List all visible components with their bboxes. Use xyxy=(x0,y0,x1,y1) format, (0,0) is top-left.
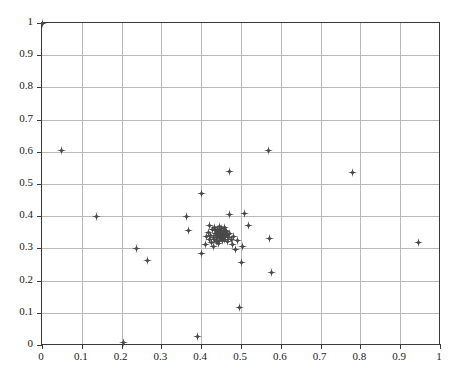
data-point xyxy=(235,303,244,312)
data-point xyxy=(220,223,229,232)
x-axis-tick xyxy=(281,344,282,349)
y-axis-tick-label: 0.4 xyxy=(0,208,33,221)
x-axis-tick xyxy=(82,344,83,349)
y-axis-tick xyxy=(37,248,42,249)
x-axis-tick xyxy=(241,344,242,349)
data-point xyxy=(348,168,357,177)
data-point xyxy=(264,146,273,155)
y-axis-tick xyxy=(37,216,42,217)
gridline-horizontal xyxy=(42,248,439,249)
data-point xyxy=(213,233,222,242)
data-point xyxy=(213,228,222,237)
data-point xyxy=(207,238,216,247)
x-axis-tick-label: 0.7 xyxy=(300,350,340,363)
y-axis-tick-label: 0.7 xyxy=(0,112,33,125)
data-point xyxy=(209,233,218,242)
x-axis-tick xyxy=(440,344,441,349)
y-axis-tick xyxy=(37,23,42,24)
scatter-chart: 00.10.20.30.40.50.60.70.80.9100.10.20.30… xyxy=(0,0,463,382)
x-axis-tick-label: 1 xyxy=(419,350,459,363)
data-point xyxy=(204,228,213,237)
data-point xyxy=(209,242,218,251)
data-point xyxy=(225,167,234,176)
y-axis-tick-label: 0.2 xyxy=(0,273,33,286)
x-axis-tick-label: 0 xyxy=(21,350,61,363)
y-axis-tick xyxy=(37,281,42,282)
data-point xyxy=(219,233,228,242)
gridline-horizontal xyxy=(42,216,439,217)
data-point xyxy=(223,237,232,246)
x-axis-tick-label: 0.4 xyxy=(180,350,220,363)
y-axis-tick-label: 0.3 xyxy=(0,240,33,253)
data-point xyxy=(218,236,227,245)
data-point xyxy=(215,222,224,231)
x-axis-tick xyxy=(360,344,361,349)
y-axis-tick-label: 0.8 xyxy=(0,79,33,92)
x-axis-tick-label: 0.3 xyxy=(140,350,180,363)
data-point xyxy=(143,256,152,265)
y-axis-tick xyxy=(37,55,42,56)
data-point xyxy=(221,232,230,241)
x-axis-tick-label: 0.6 xyxy=(260,350,300,363)
data-point xyxy=(213,225,222,234)
data-point xyxy=(215,227,224,236)
x-axis-tick xyxy=(42,344,43,349)
data-point xyxy=(202,232,211,241)
data-point xyxy=(223,230,232,239)
data-point xyxy=(227,235,236,244)
data-point xyxy=(216,232,225,241)
data-point xyxy=(219,228,228,237)
data-point xyxy=(221,230,230,239)
data-point xyxy=(119,338,128,347)
y-axis-tick-label: 0.6 xyxy=(0,144,33,157)
x-axis-tick xyxy=(321,344,322,349)
x-axis-tick xyxy=(161,344,162,349)
data-point xyxy=(211,229,220,238)
data-point xyxy=(222,227,231,236)
y-axis-tick-label: 1 xyxy=(0,15,33,28)
data-point xyxy=(414,238,423,247)
y-axis-tick-label: 0.5 xyxy=(0,176,33,189)
x-axis-tick xyxy=(122,344,123,349)
gridline-horizontal xyxy=(42,120,439,121)
x-axis-tick-label: 0.8 xyxy=(339,350,379,363)
y-axis-tick-label: 0.9 xyxy=(0,47,33,60)
y-axis-tick-label: 0.1 xyxy=(0,305,33,318)
data-point xyxy=(205,221,214,230)
x-axis-tick-label: 0.1 xyxy=(61,350,101,363)
gridline-horizontal xyxy=(42,152,439,153)
data-point xyxy=(225,210,234,219)
data-point xyxy=(225,229,234,238)
gridline-horizontal xyxy=(42,87,439,88)
plot-area xyxy=(41,22,440,345)
gridline-horizontal xyxy=(42,313,439,314)
data-point xyxy=(267,268,276,277)
y-axis-tick xyxy=(37,87,42,88)
gridline-horizontal xyxy=(42,55,439,56)
data-point xyxy=(221,226,230,235)
data-point xyxy=(210,223,219,232)
data-point xyxy=(217,229,226,238)
y-axis-tick xyxy=(37,184,42,185)
x-axis-tick-label: 0.9 xyxy=(379,350,419,363)
data-point xyxy=(208,225,217,234)
data-point xyxy=(265,234,274,243)
y-axis-tick xyxy=(37,120,42,121)
data-point xyxy=(229,232,238,241)
data-point xyxy=(214,230,223,239)
data-point xyxy=(217,224,226,233)
x-axis-tick xyxy=(400,344,401,349)
y-axis-tick-label: 0 xyxy=(0,337,33,350)
data-point xyxy=(216,226,225,235)
data-point xyxy=(215,236,224,245)
data-point xyxy=(219,227,228,236)
data-point xyxy=(205,235,214,244)
x-axis-tick xyxy=(201,344,202,349)
data-point xyxy=(57,146,66,155)
data-point xyxy=(212,237,221,246)
data-point xyxy=(224,233,233,242)
data-point xyxy=(184,226,193,235)
data-point xyxy=(244,221,253,230)
gridline-horizontal xyxy=(42,281,439,282)
data-point xyxy=(217,234,226,243)
